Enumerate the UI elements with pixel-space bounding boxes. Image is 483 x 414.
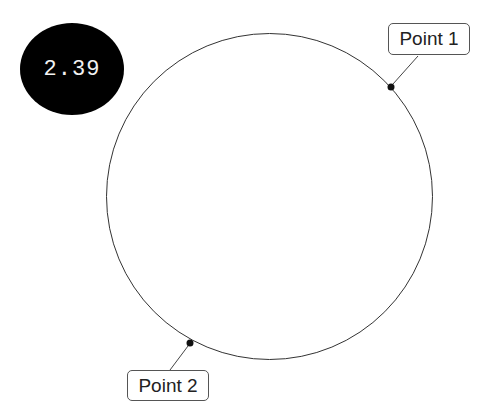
point-1-label: Point 1 bbox=[388, 23, 470, 55]
point-2-label: Point 2 bbox=[127, 370, 209, 401]
main-circle bbox=[107, 34, 433, 360]
leader-line-point-1 bbox=[393, 56, 418, 84]
point-1-marker[interactable] bbox=[388, 84, 395, 91]
point-1-label-text: Point 1 bbox=[399, 28, 458, 50]
value-badge-text: 2.39 bbox=[44, 57, 101, 82]
point-2-marker[interactable] bbox=[187, 340, 194, 347]
point-2-label-text: Point 2 bbox=[138, 375, 197, 397]
value-badge: 2.39 bbox=[20, 23, 124, 115]
leader-line-point-2 bbox=[170, 346, 188, 370]
